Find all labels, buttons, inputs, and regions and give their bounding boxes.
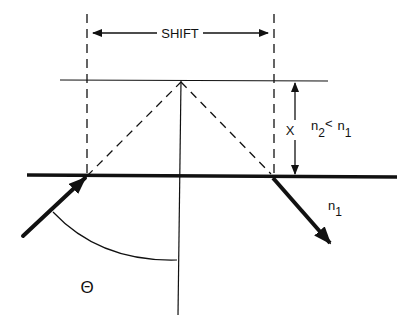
interface-line xyxy=(27,175,397,177)
shift-label: SHIFT xyxy=(161,26,199,41)
normal-line xyxy=(178,81,181,315)
incident-ray xyxy=(23,178,85,236)
n-relation-label: n2<n1 xyxy=(311,116,352,140)
angle-arc xyxy=(53,212,177,260)
reflected-ray xyxy=(273,178,330,243)
diagram-canvas: SHIFT X n2<n1 n1 Θ xyxy=(0,0,416,335)
virtual-ray-in xyxy=(87,82,181,176)
virtual-ray-out xyxy=(181,82,271,174)
n1-label: n1 xyxy=(328,198,342,219)
theta-label: Θ xyxy=(80,278,93,297)
penetration-boundary xyxy=(60,80,328,81)
depth-label: X xyxy=(286,123,295,138)
